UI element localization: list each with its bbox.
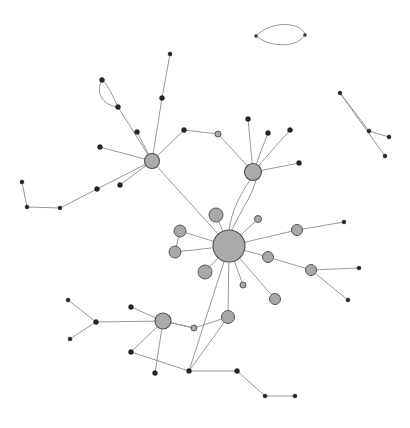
graph-node[interactable] [288,128,293,133]
graph-node[interactable] [129,305,134,310]
graph-node[interactable] [270,294,281,305]
graph-node[interactable] [303,33,307,37]
graph-node[interactable] [174,225,186,237]
graph-node[interactable] [168,52,172,56]
graph-edge-curved [99,80,118,107]
graph-node[interactable] [100,78,105,83]
graph-node[interactable] [383,154,387,158]
graph-edge [70,322,96,339]
graph-node[interactable] [198,265,212,279]
graph-edge [297,222,344,230]
graph-node[interactable] [263,394,267,398]
graph-node[interactable] [246,117,251,122]
graph-edge [60,189,97,208]
graph-node[interactable] [145,154,160,169]
graph-node[interactable] [160,96,165,101]
graph-node[interactable] [182,128,187,133]
graph-node[interactable] [209,208,223,222]
graph-node[interactable] [255,216,262,223]
graph-node[interactable] [187,369,192,374]
graph-node[interactable] [254,34,258,38]
graph-node[interactable] [292,225,303,236]
graph-edge [22,182,27,207]
graph-node[interactable] [342,220,346,224]
graph-edge [152,161,229,246]
network-graph-figure [0,0,410,428]
node-layer [20,33,391,398]
graph-edge [131,352,189,371]
graph-node[interactable] [240,282,246,288]
graph-edge [340,93,369,131]
graph-edge [97,161,152,189]
graph-node[interactable] [20,180,24,184]
graph-node[interactable] [129,350,134,355]
graph-node[interactable] [367,129,371,133]
graph-node[interactable] [153,371,158,376]
graph-node[interactable] [387,135,391,139]
graph-edge-curved [232,180,256,230]
graph-edge [184,130,218,134]
graph-edge [311,268,359,270]
graph-edge-curved [256,25,305,45]
graph-node[interactable] [135,130,140,135]
curved-edge-layer [99,25,305,231]
graph-node[interactable] [222,311,235,324]
graph-node[interactable] [116,105,121,110]
graph-node[interactable] [293,394,297,398]
graph-node[interactable] [346,298,350,302]
graph-node[interactable] [245,164,262,181]
graph-edge [237,371,265,396]
graph-edge [189,246,229,371]
graph-edge [369,131,389,137]
graph-node[interactable] [263,252,274,263]
edge-layer [22,54,389,396]
graph-edge [162,54,170,98]
graph-node[interactable] [25,205,29,209]
network-graph-canvas [0,0,410,428]
graph-edge [152,98,162,161]
graph-node[interactable] [235,369,240,374]
graph-edge [68,300,96,322]
graph-node[interactable] [213,230,245,262]
graph-node[interactable] [297,161,302,166]
graph-node[interactable] [306,265,317,276]
graph-edge [27,207,60,208]
graph-node[interactable] [58,206,62,210]
graph-edge-curved [229,180,250,230]
graph-node[interactable] [68,337,72,341]
graph-node[interactable] [357,266,361,270]
graph-node[interactable] [266,131,271,136]
graph-node[interactable] [66,298,70,302]
graph-node[interactable] [95,187,100,192]
graph-edge [96,321,163,322]
graph-edge [311,270,348,300]
graph-node[interactable] [118,183,123,188]
graph-node[interactable] [215,131,221,137]
graph-node[interactable] [169,246,181,258]
graph-node[interactable] [155,313,171,329]
graph-node[interactable] [98,145,103,150]
graph-node[interactable] [338,91,342,95]
graph-node[interactable] [191,325,197,331]
graph-edge [268,257,311,270]
graph-node[interactable] [94,320,99,325]
